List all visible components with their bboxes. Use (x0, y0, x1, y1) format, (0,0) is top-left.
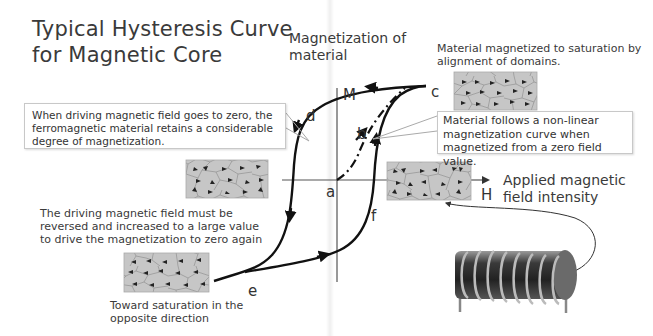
point-a-label: a (326, 183, 335, 201)
reverse-saturation-annotation: Toward saturation in the opposite direct… (110, 299, 243, 325)
point-b-label: b (357, 125, 367, 143)
domain-box-remanent (186, 160, 268, 198)
h-axis-arrow-icon (482, 176, 490, 184)
nonlinear-callout: Material follows a non-linear magnetizat… (437, 111, 633, 154)
saturation-annotation: Material magnetized to saturation by ali… (437, 42, 641, 68)
m-axis-symbol: M (343, 86, 356, 104)
m-axis-label: Magnetization of material (289, 30, 406, 64)
point-f-label: f (371, 207, 376, 225)
h-axis-symbol: H (481, 186, 492, 204)
solenoid-coil-icon (455, 250, 577, 313)
domain-box-reverse-saturated (124, 253, 209, 292)
point-e-label: e (248, 282, 257, 300)
domain-box-saturated (454, 72, 537, 110)
point-c-label: c (431, 83, 439, 101)
point-d-label: d (306, 107, 316, 125)
h-axis-label: Applied magnetic field intensity (503, 172, 626, 206)
coercive-field-annotation: The driving magnetic field must be rever… (40, 207, 262, 246)
retention-callout: When driving magnetic field goes to zero… (24, 103, 286, 149)
